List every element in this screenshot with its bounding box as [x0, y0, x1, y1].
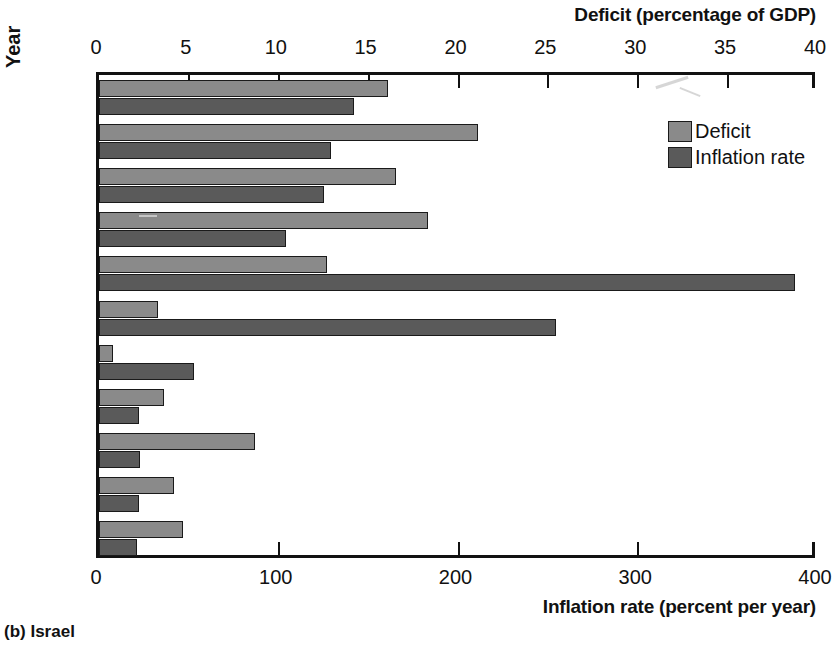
bar-inflation-1988	[99, 451, 140, 468]
bottom-axis-tick-label: 400	[798, 566, 831, 589]
legend-swatch-icon	[668, 121, 692, 142]
legend-item-inflation-rate: Inflation rate	[668, 144, 805, 170]
axis-right-top-stub	[812, 75, 815, 88]
bar-deficit-1985	[99, 301, 158, 318]
scan-artifact	[679, 87, 700, 97]
bar-inflation-1980	[99, 98, 354, 115]
figure-caption: (b) Israel	[4, 622, 75, 642]
bar-inflation-1989	[99, 495, 139, 512]
legend: DeficitInflation rate	[668, 118, 805, 170]
bar-inflation-1987	[99, 407, 139, 424]
top-axis-tick-label: 0	[90, 36, 101, 59]
top-axis-tick-label: 40	[804, 36, 826, 59]
top-axis-tick	[637, 75, 639, 88]
axis-right-bottom-stub	[812, 542, 815, 555]
bar-deficit-1989	[99, 477, 174, 494]
bar-inflation-1983	[99, 230, 286, 247]
bar-deficit-1983	[99, 212, 428, 229]
bar-deficit-1987	[99, 389, 164, 406]
bar-inflation-1990	[99, 539, 137, 556]
bottom-axis-tick-label: 100	[259, 566, 292, 589]
top-axis-tick-label: 10	[265, 36, 287, 59]
bar-inflation-1981	[99, 142, 331, 159]
bar-deficit-1980	[99, 80, 388, 97]
top-axis-tick-label: 15	[355, 36, 377, 59]
top-axis-tick-label: 25	[534, 36, 556, 59]
bar-deficit-1982	[99, 168, 396, 185]
top-axis-tick-label: 5	[180, 36, 191, 59]
top-axis-title: Deficit (percentage of GDP)	[574, 4, 816, 26]
top-axis-tick	[547, 75, 549, 88]
bar-deficit-1981	[99, 124, 478, 141]
bar-inflation-1986	[99, 363, 194, 380]
top-axis-tick-label: 35	[714, 36, 736, 59]
legend-label: Deficit	[695, 120, 751, 143]
bottom-axis-title: Inflation rate (percent per year)	[543, 596, 816, 618]
legend-label: Inflation rate	[695, 146, 805, 169]
bottom-axis-tick-label: 300	[619, 566, 652, 589]
y-axis-title: Year	[2, 26, 25, 68]
bar-deficit-1988	[99, 433, 255, 450]
top-axis-tick	[458, 75, 460, 88]
bar-deficit-1986	[99, 345, 113, 362]
legend-swatch-icon	[668, 147, 692, 168]
bottom-axis-tick-label: 0	[90, 566, 101, 589]
bar-inflation-1982	[99, 186, 324, 203]
bar-inflation-1985	[99, 319, 556, 336]
bottom-axis-tick-label: 200	[439, 566, 472, 589]
top-axis-tick-label: 20	[444, 36, 466, 59]
bar-deficit-1990	[99, 521, 183, 538]
bar-inflation-1984	[99, 274, 795, 291]
top-axis-tick-label: 30	[624, 36, 646, 59]
bottom-axis-tick	[278, 542, 280, 555]
bar-deficit-1984	[99, 256, 327, 273]
bottom-axis-tick	[637, 542, 639, 555]
scan-artifact	[655, 76, 688, 89]
legend-item-deficit: Deficit	[668, 118, 805, 144]
top-axis-tick	[727, 75, 729, 88]
bottom-axis-tick	[458, 542, 460, 555]
